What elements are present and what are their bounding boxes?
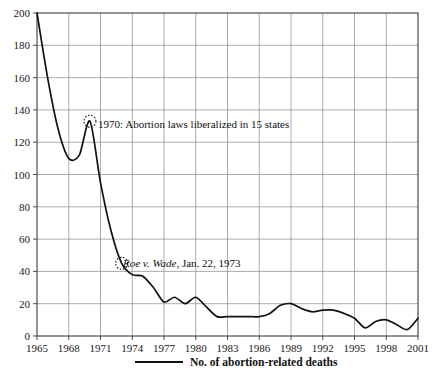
y-tick-140: 140 <box>14 104 31 116</box>
x-tick-1989: 1989 <box>280 342 303 354</box>
x-tick-1983: 1983 <box>217 342 240 354</box>
annotation-label-roe-v-wade: Roe v. Wade, Jan. 22, 1973 <box>122 257 241 269</box>
y-tick-40: 40 <box>19 265 31 277</box>
chart-svg: 020406080100120140160180200 196519681971… <box>0 0 439 377</box>
y-tick-120: 120 <box>14 136 31 148</box>
x-tick-1977: 1977 <box>153 342 176 354</box>
x-tick-1974: 1974 <box>121 342 144 354</box>
annotation-label-roe-v-wade-case: Roe v. Wade <box>122 257 177 269</box>
x-tick-1998: 1998 <box>375 342 398 354</box>
y-axis-ticks <box>33 13 37 336</box>
annotation-label-1970: 1970: Abortion laws liberalized in 15 st… <box>98 118 289 130</box>
annotation-label-roe-v-wade-date: , Jan. 22, 1973 <box>176 257 241 269</box>
y-tick-100: 100 <box>14 169 31 181</box>
y-tick-60: 60 <box>19 233 31 245</box>
y-tick-20: 20 <box>19 298 31 310</box>
x-axis-ticks <box>37 336 418 340</box>
y-tick-160: 160 <box>14 72 31 84</box>
y-axis-tick-labels: 020406080100120140160180200 <box>14 7 31 342</box>
x-tick-1971: 1971 <box>90 342 112 354</box>
x-tick-2001: 2001 <box>407 342 429 354</box>
x-tick-1965: 1965 <box>26 342 49 354</box>
legend-label-deaths: No. of abortion-related deaths <box>190 356 338 368</box>
y-tick-80: 80 <box>19 201 31 213</box>
x-tick-1968: 1968 <box>58 342 81 354</box>
abortion-deaths-line-chart: 020406080100120140160180200 196519681971… <box>0 0 439 377</box>
x-tick-1995: 1995 <box>344 342 367 354</box>
x-axis-tick-labels: 1965196819711974197719801983198619891992… <box>26 342 429 354</box>
y-tick-200: 200 <box>14 7 31 19</box>
x-tick-1986: 1986 <box>248 342 271 354</box>
y-tick-0: 0 <box>25 330 31 342</box>
y-tick-180: 180 <box>14 39 31 51</box>
x-tick-1992: 1992 <box>312 342 334 354</box>
x-tick-1980: 1980 <box>185 342 208 354</box>
